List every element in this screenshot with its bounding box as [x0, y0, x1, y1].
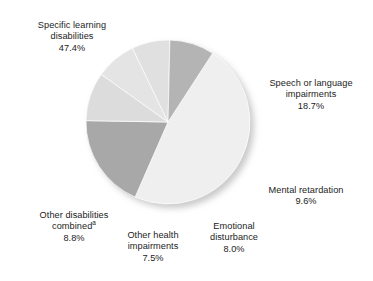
slice-value-label: 18.7%: [252, 101, 370, 112]
slice-label-line1: Speech or language: [252, 78, 370, 89]
slice-label-mental-retardation: Mental retardation 9.6%: [244, 185, 368, 208]
slice-label-line1: Other disabilities: [22, 210, 126, 221]
slice-label-emotional-disturbance: Emotional disturbance 8.0%: [190, 221, 278, 255]
footnote-marker: a: [92, 219, 96, 226]
slice-value-label: 8.0%: [190, 244, 278, 255]
slice-value-label: 8.8%: [22, 233, 126, 244]
slice-label-line1: Emotional: [190, 221, 278, 232]
pie-chart-figure: Specific learning disabilities 47.4% Spe…: [0, 0, 373, 281]
slice-label-line2: impairments: [252, 89, 370, 100]
slice-label-line2: disabilities: [14, 31, 130, 42]
slice-label-other-disabilities-combined: Other disabilities combineda 8.8%: [22, 210, 126, 244]
slice-label-line2: disturbance: [190, 232, 278, 243]
slice-label-line1: Mental retardation: [244, 185, 368, 196]
pie-slice-group: [86, 40, 250, 204]
slice-label-speech-or-language-impairments: Speech or language impairments 18.7%: [252, 78, 370, 112]
slice-label-line2-wrap: combineda: [22, 221, 126, 232]
slice-label-line2: combined: [52, 221, 92, 231]
slice-label-line1: Specific learning: [14, 20, 130, 31]
slice-value-label: 7.5%: [110, 253, 196, 264]
slice-label-specific-learning-disabilities: Specific learning disabilities 47.4%: [14, 20, 130, 54]
slice-value-label: 47.4%: [14, 43, 130, 54]
slice-value-label: 9.6%: [244, 196, 368, 207]
